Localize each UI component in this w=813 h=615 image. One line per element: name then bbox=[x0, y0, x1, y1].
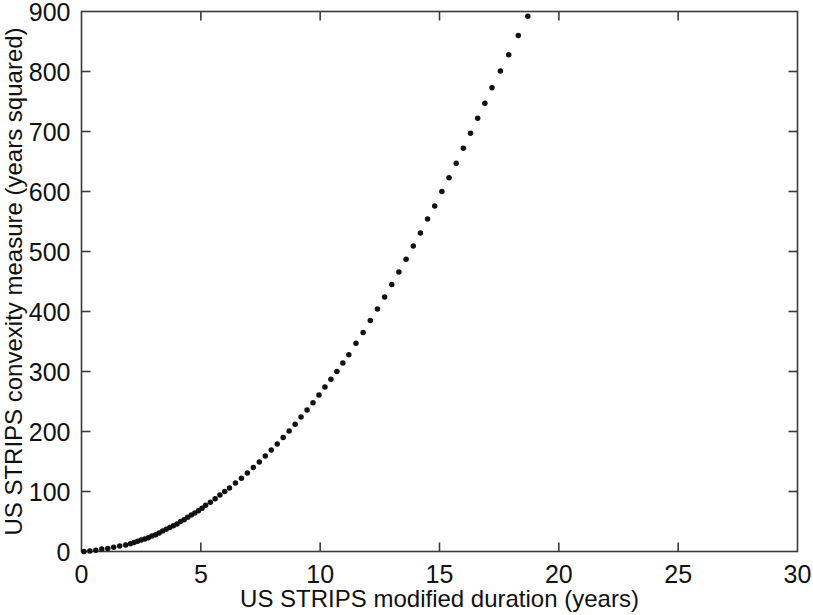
data-point bbox=[418, 230, 424, 236]
data-point bbox=[475, 116, 481, 122]
y-tick-label: 200 bbox=[29, 418, 71, 446]
data-point bbox=[432, 203, 438, 209]
data-point bbox=[516, 33, 522, 39]
data-point bbox=[286, 428, 292, 434]
y-tick-label: 900 bbox=[29, 0, 71, 26]
data-point bbox=[93, 548, 99, 554]
data-point bbox=[298, 414, 304, 420]
data-point bbox=[340, 360, 346, 366]
data-point bbox=[368, 318, 374, 324]
data-point bbox=[245, 470, 251, 476]
data-point bbox=[346, 352, 352, 358]
y-tick-label: 700 bbox=[29, 118, 71, 146]
data-point bbox=[353, 341, 359, 347]
data-point bbox=[304, 407, 310, 413]
data-point bbox=[212, 496, 218, 502]
data-point bbox=[111, 545, 117, 551]
x-tick-label: 15 bbox=[426, 560, 454, 588]
data-point bbox=[489, 85, 495, 91]
x-tick-label: 10 bbox=[306, 560, 334, 588]
chart-canvas: 0100200300400500600700800900 05101520253… bbox=[0, 0, 813, 615]
y-tick-label: 100 bbox=[29, 478, 71, 506]
data-point bbox=[268, 447, 274, 453]
data-point bbox=[468, 131, 474, 137]
data-point bbox=[81, 549, 87, 555]
data-point bbox=[274, 441, 280, 447]
data-point bbox=[334, 369, 340, 375]
data-point bbox=[396, 269, 402, 275]
data-point bbox=[498, 68, 504, 74]
data-point bbox=[506, 52, 512, 58]
x-tick-label: 0 bbox=[75, 560, 89, 588]
data-point bbox=[310, 400, 316, 406]
data-point bbox=[263, 453, 269, 459]
y-tick-label: 0 bbox=[57, 538, 71, 566]
chart-background bbox=[0, 0, 813, 615]
data-point bbox=[360, 330, 366, 336]
data-point bbox=[105, 546, 111, 552]
data-point bbox=[227, 485, 233, 491]
data-point bbox=[425, 216, 431, 222]
data-point bbox=[222, 489, 228, 495]
data-point bbox=[411, 243, 417, 249]
data-point bbox=[117, 543, 123, 549]
data-point bbox=[217, 492, 223, 498]
data-point bbox=[482, 101, 488, 107]
x-tick-label: 5 bbox=[194, 560, 208, 588]
data-point bbox=[375, 306, 381, 312]
data-point bbox=[382, 294, 388, 300]
data-point bbox=[453, 161, 459, 167]
data-point bbox=[123, 542, 128, 548]
data-point bbox=[257, 459, 263, 465]
x-axis-title: US STRIPS modified duration (years) bbox=[240, 585, 639, 612]
convexity-scatter-figure: 0100200300400500600700800900 05101520253… bbox=[0, 0, 813, 615]
data-point bbox=[203, 503, 209, 509]
data-point bbox=[439, 189, 445, 195]
data-point bbox=[87, 548, 93, 554]
data-point bbox=[328, 377, 334, 383]
x-tick-label: 30 bbox=[784, 560, 812, 588]
y-tick-label: 800 bbox=[29, 58, 71, 86]
data-point bbox=[316, 392, 322, 398]
data-point bbox=[239, 476, 245, 482]
data-point bbox=[461, 146, 467, 152]
data-point bbox=[446, 175, 452, 181]
y-tick-label: 500 bbox=[29, 238, 71, 266]
data-point bbox=[280, 435, 286, 441]
data-point bbox=[251, 465, 257, 471]
data-point bbox=[233, 480, 239, 486]
x-tick-label: 20 bbox=[545, 560, 573, 588]
data-point bbox=[292, 422, 298, 428]
y-tick-label: 600 bbox=[29, 178, 71, 206]
data-point bbox=[99, 546, 105, 552]
y-axis-title: US STRIPS convexity measure (years squar… bbox=[0, 27, 27, 535]
y-tick-label: 300 bbox=[29, 358, 71, 386]
data-point bbox=[208, 500, 214, 506]
data-point bbox=[322, 384, 328, 390]
y-tick-label: 400 bbox=[29, 298, 71, 326]
data-point bbox=[403, 257, 409, 263]
data-point bbox=[389, 282, 395, 288]
x-tick-label: 25 bbox=[664, 560, 692, 588]
data-point bbox=[525, 14, 531, 20]
